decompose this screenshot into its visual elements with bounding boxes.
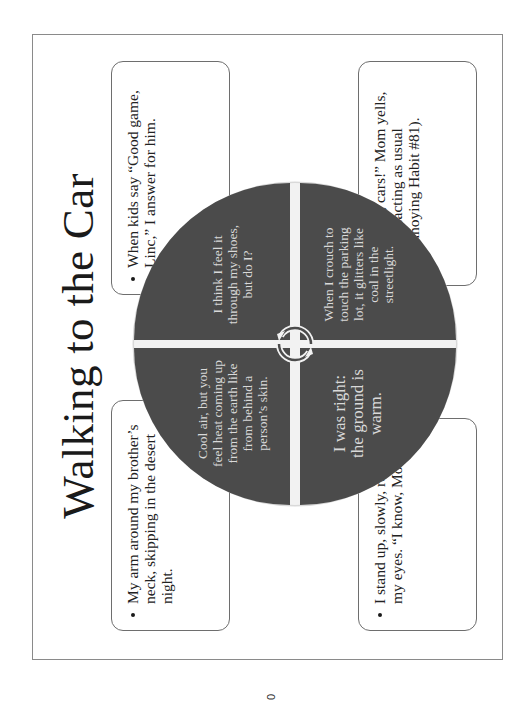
- cycle-diagram: Cool air, but you feel heat coming up fr…: [134, 183, 456, 505]
- segment-text: Cool air, but you feel heat coming up fr…: [195, 360, 270, 468]
- page-number: 0: [264, 689, 278, 702]
- slide-title: Walking to the Car: [51, 33, 105, 659]
- callout-bullet: When kids say “Good game, Linc,” I answe…: [124, 72, 158, 268]
- slide: Walking to the Car My arm around my brot…: [32, 34, 503, 660]
- segment-text: I think I feel it through my shoes, but …: [210, 225, 255, 325]
- segment-text: I was right: the ground is warm.: [331, 364, 385, 464]
- callout-list: When kids say “Good game, Linc,” I answe…: [124, 72, 158, 282]
- segment-text: When I crouch to touch the parking lot, …: [321, 225, 396, 325]
- cycle-arrows-icon: [273, 322, 317, 366]
